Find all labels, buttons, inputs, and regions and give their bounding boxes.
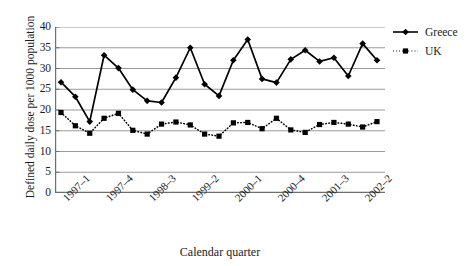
data-point-marker (402, 28, 409, 35)
legend-label: UK (425, 45, 442, 57)
legend-label: Greece (425, 26, 458, 38)
data-point-marker (188, 122, 193, 127)
data-point-marker (346, 122, 351, 127)
data-point-marker (216, 134, 221, 139)
data-point-marker (231, 120, 236, 125)
data-point-marker (187, 44, 194, 51)
data-point-marker (202, 131, 207, 136)
x-axis-tick-labels: 1997–11997–41998–31999–22000–12000–42001… (55, 196, 395, 242)
legend-item-uk: UK (392, 41, 466, 60)
data-point-marker (403, 48, 408, 53)
data-point-marker (130, 128, 135, 133)
series-line (61, 112, 377, 136)
y-axis-title-container: Defined daily dose per 1000 population (0, 0, 22, 266)
data-point-marker (259, 126, 264, 131)
data-point-marker (288, 127, 293, 132)
legend-marker-diamond-icon (392, 26, 419, 38)
y-axis-tick-label: 40 (27, 21, 51, 33)
legend-marker-square-icon (392, 45, 419, 57)
gridlines (55, 27, 385, 172)
plot-svg (55, 27, 385, 193)
data-point-marker (101, 116, 106, 121)
data-point-marker (116, 111, 121, 116)
y-axis-tick-label: 35 (27, 42, 51, 54)
y-axis-tick-labels: 0510152025303540 (23, 27, 51, 193)
chart-legend: GreeceUK (392, 22, 466, 60)
x-axis-title: Calendar quarter (55, 246, 385, 259)
series-greece (58, 36, 381, 125)
data-point-marker (58, 110, 63, 115)
data-point-marker (159, 122, 164, 127)
y-axis-tick-label: 20 (27, 104, 51, 116)
y-axis-tick-label: 0 (27, 187, 51, 199)
data-series-layer (58, 36, 381, 139)
data-point-marker (73, 123, 78, 128)
y-axis-tick-label: 5 (27, 166, 51, 178)
data-point-marker (317, 122, 322, 127)
data-point-marker (87, 131, 92, 136)
data-point-marker (145, 131, 150, 136)
data-point-marker (331, 120, 336, 125)
data-point-marker (374, 119, 379, 124)
y-axis-tick-label: 25 (27, 83, 51, 95)
series-line (61, 39, 377, 121)
chart-figure: Defined daily dose per 1000 population 0… (0, 0, 466, 266)
y-axis-tick-label: 30 (27, 63, 51, 75)
data-point-marker (274, 116, 279, 121)
data-point-marker (259, 76, 266, 83)
data-point-marker (360, 124, 365, 129)
data-point-marker (173, 119, 178, 124)
plot-area (55, 27, 385, 193)
data-point-marker (303, 130, 308, 135)
y-axis-tick-label: 10 (27, 146, 51, 158)
data-point-marker (245, 120, 250, 125)
series-uk (58, 110, 379, 139)
y-axis-tick-label: 15 (27, 125, 51, 137)
legend-item-greece: Greece (392, 22, 466, 41)
